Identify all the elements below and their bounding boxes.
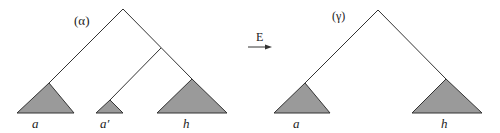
triangle-a-prime <box>96 100 123 113</box>
arrow-head-icon <box>265 45 272 50</box>
arrow <box>248 45 272 50</box>
leaf-a-left: a <box>32 116 39 131</box>
leaf-a-prime: a′ <box>100 116 110 131</box>
left-tree-label: (α) <box>74 13 89 28</box>
triangle-h-right <box>412 79 482 113</box>
left-tree <box>17 9 227 113</box>
leaf-h-right: h <box>441 116 448 131</box>
triangle-h <box>157 79 227 113</box>
triangle-a-right <box>274 83 330 113</box>
right-tree <box>274 10 482 113</box>
leaf-h-left: h <box>183 116 190 131</box>
right-tree-label: (γ) <box>332 9 345 23</box>
leaf-a-right: a <box>293 116 300 131</box>
tree-diagram: (α) a a′ h E (γ) a h <box>0 0 500 133</box>
triangle-a <box>17 83 74 113</box>
arrow-label: E <box>256 30 263 44</box>
